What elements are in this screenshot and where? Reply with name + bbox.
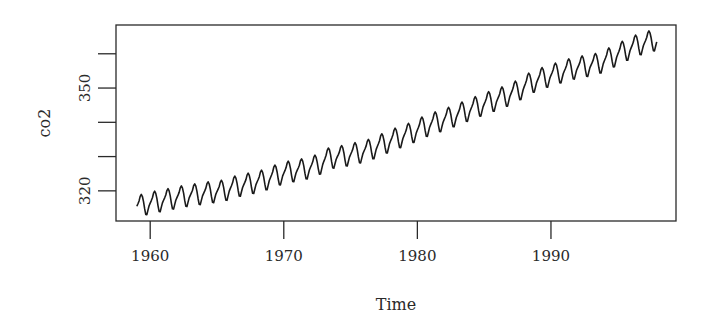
co2-series-line bbox=[137, 31, 657, 215]
x-tick-label: 1980 bbox=[398, 247, 436, 265]
plot-area bbox=[116, 25, 676, 221]
plot-frame bbox=[116, 25, 676, 221]
y-tick-label: 320 bbox=[76, 177, 94, 206]
x-tick-label: 1970 bbox=[265, 247, 303, 265]
y-axis: 320350 bbox=[76, 54, 116, 205]
y-tick-label: 350 bbox=[76, 74, 94, 103]
y-axis-title: co2 bbox=[35, 109, 54, 138]
co2-time-series-chart: 1960197019801990 320350 Time co2 bbox=[0, 0, 703, 327]
x-axis-title: Time bbox=[376, 295, 416, 314]
x-tick-label: 1990 bbox=[532, 247, 570, 265]
x-axis: 1960197019801990 bbox=[131, 221, 570, 265]
x-tick-label: 1960 bbox=[131, 247, 169, 265]
